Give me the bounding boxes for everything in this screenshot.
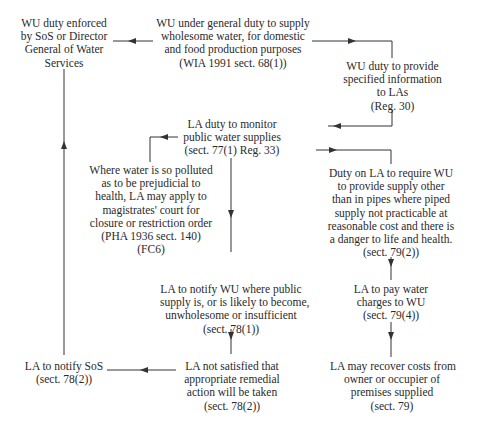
node-text-line: owner or occupier of [330, 373, 454, 386]
node-text-line: LA to pay water [347, 283, 435, 296]
node-la-require-supply: Duty on LA to require WU to provide supp… [326, 167, 456, 259]
arrowhead-left-icon [128, 38, 136, 44]
node-text-line: closure or restriction order [88, 217, 214, 230]
edge-monitor-to-require [316, 150, 391, 164]
node-text-line: reasonable cost and there is [326, 220, 456, 233]
node-text-line: specified information [340, 73, 445, 86]
node-text-line: WU under general duty to supply [146, 17, 320, 30]
node-text-line: a danger to life and health. [326, 233, 456, 246]
node-text-line: charges to WU [347, 296, 435, 309]
node-text-line: action will be taken [180, 386, 284, 399]
node-text-line: (sect. 78(2)) [20, 373, 108, 386]
node-text-line: unwholesome or insufficient [160, 309, 302, 322]
node-text-line: WU duty enforced [8, 17, 120, 30]
arrowhead-down-icon [228, 210, 234, 218]
arrowhead-down-icon [388, 332, 394, 340]
node-text-line: health, LA may apply to [88, 190, 214, 203]
node-text-line: LA to notify WU where public [160, 283, 302, 296]
node-text-line: (Reg. 30) [340, 100, 445, 113]
arrowhead-right-icon [348, 38, 356, 44]
node-text-line: (sect. 79(4)) [347, 309, 435, 322]
node-text-line: (sect. 79) [330, 400, 454, 413]
node-text-line: to LAs [340, 86, 445, 99]
node-text-line: LA not satisfied that [180, 360, 284, 373]
node-text-line: Services [8, 57, 120, 70]
node-text-line: appropriate remedial [180, 373, 284, 386]
arrowhead-left-icon [333, 123, 341, 129]
node-la-notify-sos: LA to notify SoS (sect. 78(2)) [20, 360, 108, 386]
node-la-pay-charges: LA to pay water charges to WU (sect. 79(… [347, 283, 435, 323]
node-text-line: LA may recover costs from [330, 360, 454, 373]
node-text-line: LA duty to monitor [174, 118, 290, 131]
arrowhead-down-icon [388, 259, 394, 267]
node-la-notify-wu: LA to notify WU where public supply is, … [160, 283, 302, 336]
arrowhead-right-icon [329, 147, 337, 153]
flowchart-canvas: WU duty enforced by SoS or Director Gene… [0, 0, 477, 428]
node-polluted-court: Where water is so polluted as to be prej… [88, 164, 214, 256]
node-text-line: public water supplies [174, 131, 290, 144]
node-text-line: (sect. 79(2)) [326, 246, 456, 259]
node-text-line: supply not practicable at [326, 207, 456, 220]
node-text-line: to provide supply other [326, 180, 456, 193]
node-la-recover-costs: LA may recover costs from owner or occup… [330, 360, 454, 413]
arrowhead-left-icon [160, 134, 168, 140]
node-wu-provide-info: WU duty to provide specified information… [340, 60, 445, 113]
node-text-line: (FC6) [88, 243, 214, 256]
node-la-not-satisfied: LA not satisfied that appropriate remedi… [180, 360, 284, 413]
node-text-line: General of Water [8, 43, 120, 56]
node-text-line: Duty on LA to require WU [326, 167, 456, 180]
node-text-line: (WIA 1991 sect. 68(1)) [146, 57, 320, 70]
node-text-line: supply is, or is likely to become, [160, 296, 302, 309]
node-text-line: (sect. 78(2)) [180, 400, 284, 413]
node-text-line: LA to notify SoS [20, 360, 108, 373]
node-text-line: (PHA 1936 sect. 140) [88, 230, 214, 243]
node-la-monitor: LA duty to monitor public water supplies… [174, 118, 290, 158]
arrowhead-up-icon [61, 141, 67, 149]
node-text-line: (sect. 78(1)) [160, 323, 302, 336]
node-text-line: than in pipes where piped [326, 193, 456, 206]
node-text-line: and food production purposes [146, 43, 320, 56]
node-text-line: Where water is so polluted [88, 164, 214, 177]
node-text-line: wholesome water, for domestic [146, 30, 320, 43]
node-wu-duty-enforced: WU duty enforced by SoS or Director Gene… [8, 17, 120, 70]
node-text-line: (sect. 77(1) Reg. 33) [174, 144, 290, 157]
node-wu-general-duty: WU under general duty to supply wholesom… [146, 17, 320, 70]
node-text-line: as to be prejudicial to [88, 177, 214, 190]
arrowhead-left-icon [140, 367, 148, 373]
node-text-line: by SoS or Director [8, 30, 120, 43]
edge-general-to-info [312, 41, 392, 58]
node-text-line: magistrates' court for [88, 204, 214, 217]
node-text-line: premises supplied [330, 386, 454, 399]
node-text-line: WU duty to provide [340, 60, 445, 73]
